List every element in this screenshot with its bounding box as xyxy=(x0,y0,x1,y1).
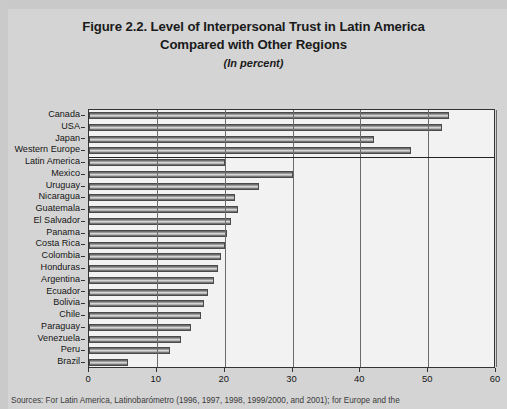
bar-row xyxy=(89,134,494,146)
bar-canada xyxy=(89,112,449,119)
plot-area xyxy=(88,109,495,368)
bar-rows xyxy=(89,110,494,367)
y-label-chile: Chile xyxy=(59,309,80,321)
x-tick-20 xyxy=(224,368,225,372)
x-tick-label-30: 30 xyxy=(286,373,296,384)
x-tick-label-50: 50 xyxy=(422,373,432,384)
y-tick xyxy=(81,150,85,151)
y-label-latin-america: Latin America xyxy=(25,156,80,168)
x-tick-50 xyxy=(427,368,428,372)
y-label-usa: USA xyxy=(61,121,80,133)
chart-plot-wrapper: CanadaUSAJapanWestern EuropeLatin Americ… xyxy=(0,103,507,387)
gridline-50 xyxy=(428,110,429,367)
y-tick xyxy=(81,221,85,222)
x-tick-30 xyxy=(292,368,293,372)
bar-panama xyxy=(89,230,227,237)
y-label-colombia: Colombia xyxy=(42,250,80,262)
y-label-guatemala: Guatemala xyxy=(36,203,80,215)
bar-row xyxy=(89,240,494,252)
y-tick xyxy=(81,186,85,187)
bar-row xyxy=(89,216,494,228)
y-tick xyxy=(81,174,85,175)
x-tick-label-0: 0 xyxy=(85,373,90,384)
bar-bolivia xyxy=(89,300,204,307)
gridline-60 xyxy=(496,110,497,367)
bar-row xyxy=(89,251,494,263)
figure-top-margin xyxy=(0,0,507,9)
y-tick xyxy=(81,350,85,351)
bar-row xyxy=(89,310,494,322)
y-label-canada: Canada xyxy=(48,109,80,121)
bar-paraguay xyxy=(89,324,191,331)
bar-row xyxy=(89,275,494,287)
y-label-ecuador: Ecuador xyxy=(46,286,80,298)
y-tick xyxy=(81,127,85,128)
figure-title-block: Figure 2.2. Level of Interpersonal Trust… xyxy=(0,18,507,71)
y-tick xyxy=(81,339,85,340)
y-tick xyxy=(81,197,85,198)
bar-colombia xyxy=(89,253,221,260)
y-label-uruguay: Uruguay xyxy=(46,180,80,192)
bar-nicaragua xyxy=(89,194,235,201)
y-tick xyxy=(81,115,85,116)
y-label-venezuela: Venezuela xyxy=(38,333,80,345)
gridline-30 xyxy=(293,110,294,367)
y-label-mexico: Mexico xyxy=(51,168,80,180)
x-tick-60 xyxy=(495,368,496,372)
bar-row xyxy=(89,287,494,299)
gridline-10 xyxy=(157,110,158,367)
x-tick-label-40: 40 xyxy=(354,373,364,384)
gridline-20 xyxy=(225,110,226,367)
x-tick-0 xyxy=(88,368,89,372)
bar-ecuador xyxy=(89,289,208,296)
y-label-paraguay: Paraguay xyxy=(41,321,80,333)
y-tick xyxy=(81,233,85,234)
gridline-40 xyxy=(360,110,361,367)
bar-peru xyxy=(89,347,170,354)
bar-row xyxy=(89,169,494,181)
bar-row xyxy=(89,145,494,157)
bar-japan xyxy=(89,136,374,143)
bar-western-europe xyxy=(89,147,411,154)
figure-subtitle: (In percent) xyxy=(0,55,507,71)
source-note: Sources: For Latin America, Latinobaróme… xyxy=(11,396,507,406)
y-label-argentina: Argentina xyxy=(41,274,80,286)
y-label-panama: Panama xyxy=(46,227,80,239)
figure-title-line-1: Figure 2.2. Level of Interpersonal Trust… xyxy=(0,18,507,36)
x-tick-label-60: 60 xyxy=(490,373,500,384)
x-axis: 0102030405060 xyxy=(88,368,495,388)
x-tick-label-20: 20 xyxy=(218,373,228,384)
y-label-costa-rica: Costa Rica xyxy=(36,238,80,250)
bar-chile xyxy=(89,312,201,319)
y-tick xyxy=(81,268,85,269)
y-tick xyxy=(81,280,85,281)
bar-row xyxy=(89,322,494,334)
bar-uruguay xyxy=(89,183,259,190)
y-label-western-europe: Western Europe xyxy=(14,144,80,156)
bar-brazil xyxy=(89,359,128,366)
figure-container: Figure 2.2. Level of Interpersonal Trust… xyxy=(0,0,507,409)
bar-guatemala xyxy=(89,206,238,213)
x-tick-label-10: 10 xyxy=(151,373,161,384)
figure-title-line-2: Compared with Other Regions xyxy=(0,36,507,54)
bar-row xyxy=(89,192,494,204)
bar-row xyxy=(89,122,494,134)
bar-argentina xyxy=(89,277,214,284)
bar-usa xyxy=(89,124,442,131)
bar-row xyxy=(89,228,494,240)
bar-row xyxy=(89,345,494,357)
bar-row xyxy=(89,298,494,310)
bar-el-salvador xyxy=(89,218,231,225)
y-tick xyxy=(81,362,85,363)
y-label-peru: Peru xyxy=(61,344,80,356)
x-tick-10 xyxy=(156,368,157,372)
bar-row xyxy=(89,110,494,122)
y-tick xyxy=(81,256,85,257)
bar-honduras xyxy=(89,265,218,272)
y-label-honduras: Honduras xyxy=(41,262,80,274)
y-label-bolivia: Bolivia xyxy=(53,297,80,309)
y-tick xyxy=(81,315,85,316)
y-tick xyxy=(81,138,85,139)
bar-venezuela xyxy=(89,336,181,343)
y-tick xyxy=(81,244,85,245)
